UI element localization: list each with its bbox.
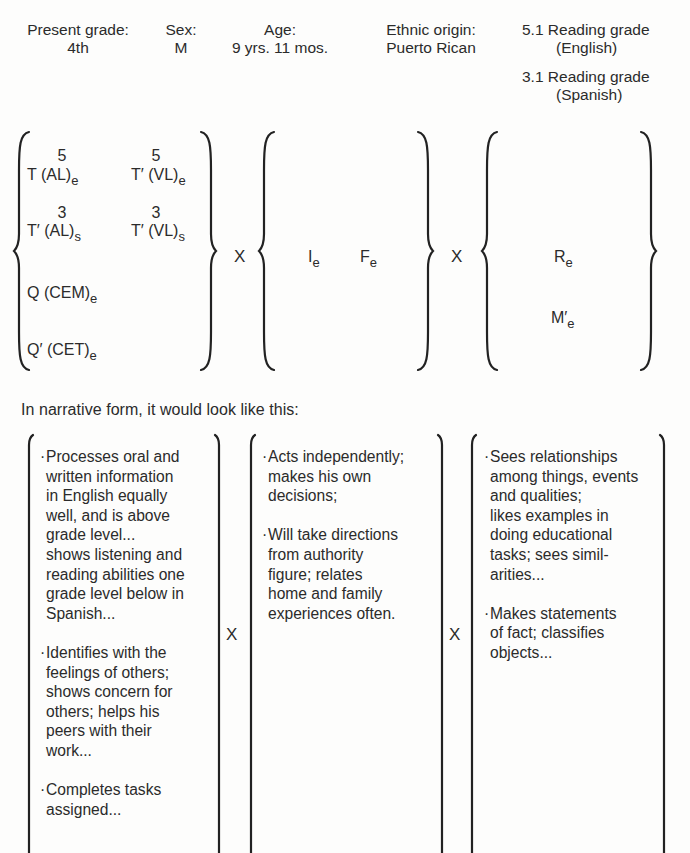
narrative-item: ·Processes oral andwritten informationin… xyxy=(46,447,216,623)
term-main: T′ (AL) xyxy=(27,222,74,239)
line: among things, events xyxy=(490,468,638,485)
term-main: Q′ (CET) xyxy=(27,341,90,358)
left-bracket-icon xyxy=(246,433,262,853)
line: home and family xyxy=(268,585,382,602)
narrative-intro: In narrative form, it would look like th… xyxy=(21,401,299,419)
term-subscript: s xyxy=(178,229,185,244)
line: shows concern for xyxy=(46,683,173,700)
term-main: F xyxy=(360,248,370,265)
line: figure; relates xyxy=(268,566,362,583)
line: assigned... xyxy=(46,801,121,818)
line: in English equally xyxy=(46,487,167,504)
line: shows listening and xyxy=(46,546,182,563)
age-label: Age: xyxy=(220,21,340,39)
ethnic-origin-value: Puerto Rican xyxy=(372,39,490,57)
multiply-operator: X xyxy=(451,247,462,267)
term-main: T′ (VL) xyxy=(131,222,178,239)
left-curly-brace-icon xyxy=(480,130,500,372)
sex-field: Sex: M xyxy=(156,21,206,57)
line: makes his own xyxy=(268,468,371,485)
line: Identifies with the xyxy=(46,644,167,661)
narrative-box-reasoning: ·Sees relationshipsamong things, eventsa… xyxy=(490,447,660,682)
exponent: 3 xyxy=(144,204,168,222)
line: grade level below in xyxy=(46,585,184,602)
formula-term-family: Fe xyxy=(360,248,377,266)
reading-grade-english-score: 5.1 Reading grade xyxy=(522,21,672,39)
exponent: 5 xyxy=(50,147,74,165)
formula-term-cet: Q′ (CET)e xyxy=(27,341,97,359)
line: Makes statements xyxy=(490,605,617,622)
narrative-box-language: ·Processes oral andwritten informationin… xyxy=(46,447,216,839)
formula-term-independence: Ie xyxy=(308,248,320,266)
line: objects... xyxy=(490,644,552,661)
formula-term-auditory-spanish: T′ (AL)s xyxy=(27,222,81,240)
term-subscript: s xyxy=(74,229,81,244)
line: likes examples in xyxy=(490,507,609,524)
sex-value: M xyxy=(156,39,206,57)
line: Sees relationships xyxy=(490,448,617,465)
reading-grade-spanish-language: (Spanish) xyxy=(522,86,672,104)
term-subscript: e xyxy=(370,255,377,270)
ethnic-origin-field: Ethnic origin: Puerto Rican xyxy=(372,21,490,57)
present-grade-value: 4th xyxy=(20,39,136,57)
line: Spanish... xyxy=(46,605,115,622)
present-grade-field: Present grade: 4th xyxy=(20,21,136,57)
narrative-item: ·Sees relationshipsamong things, eventsa… xyxy=(490,447,660,584)
line: written information xyxy=(46,468,173,485)
line: from authority xyxy=(268,546,363,563)
term-subscript: e xyxy=(312,255,319,270)
formula-term-cem: Q (CEM)e xyxy=(27,284,97,302)
line: experiences often. xyxy=(268,605,395,622)
term-main: T (AL) xyxy=(27,166,71,183)
multiply-operator: X xyxy=(226,625,237,645)
formula-term-visual-spanish: T′ (VL)s xyxy=(131,222,185,240)
term-subscript: e xyxy=(567,316,574,331)
age-field: Age: 9 yrs. 11 mos. xyxy=(220,21,340,57)
line: well, and is above xyxy=(46,507,170,524)
formula-term-visual-english: T′ (VL)e xyxy=(131,166,186,184)
right-curly-brace-icon xyxy=(638,130,658,372)
line: Acts independently; xyxy=(268,448,404,465)
present-grade-label: Present grade: xyxy=(20,21,136,39)
term-subscript: e xyxy=(71,173,78,188)
line: arities... xyxy=(490,566,545,583)
line: work... xyxy=(46,742,92,759)
exponent: 5 xyxy=(144,147,168,165)
narrative-item: ·Identifies with thefeelings of others;s… xyxy=(46,643,216,761)
term-main: M′ xyxy=(551,309,567,326)
formula-term-auditory-english: T (AL)e xyxy=(27,166,78,184)
formula-term-memory: M′e xyxy=(551,309,575,327)
narrative-item: ·Acts independently;makes his owndecisio… xyxy=(268,447,438,506)
reading-grade-english: 5.1 Reading grade (English) xyxy=(522,21,672,57)
line: and qualities; xyxy=(490,487,582,504)
line: others; helps his xyxy=(46,703,160,720)
reading-grade-english-language: (English) xyxy=(522,39,672,57)
line: feelings of others; xyxy=(46,664,169,681)
sex-label: Sex: xyxy=(156,21,206,39)
narrative-item: ·Makes statementsof fact; classifiesobje… xyxy=(490,604,660,663)
term-main: Q (CEM) xyxy=(27,284,90,301)
line: grade level... xyxy=(46,526,135,543)
right-curly-brace-icon xyxy=(198,130,218,372)
ethnic-origin-label: Ethnic origin: xyxy=(372,21,490,39)
term-main: T′ (VL) xyxy=(131,166,178,183)
exponent: 3 xyxy=(50,204,74,222)
line: Processes oral and xyxy=(46,448,179,465)
left-bracket-icon xyxy=(467,433,483,853)
narrative-item: ·Completes tasksassigned... xyxy=(46,780,216,819)
line: of fact; classifies xyxy=(490,624,604,641)
term-subscript: e xyxy=(90,291,97,306)
age-value: 9 yrs. 11 mos. xyxy=(220,39,340,57)
multiply-operator: X xyxy=(449,625,460,645)
line: Will take directions xyxy=(268,526,398,543)
line: Completes tasks xyxy=(46,781,161,798)
term-subscript: e xyxy=(178,173,185,188)
term-main: R xyxy=(554,248,566,265)
reading-grade-spanish-score: 3.1 Reading grade xyxy=(522,68,672,86)
term-subscript: e xyxy=(90,348,97,363)
line: reading abilities one xyxy=(46,566,185,583)
multiply-operator: X xyxy=(234,247,245,267)
left-curly-brace-icon xyxy=(257,130,277,372)
narrative-box-independence: ·Acts independently;makes his owndecisio… xyxy=(268,447,438,643)
line: doing educational xyxy=(490,526,612,543)
